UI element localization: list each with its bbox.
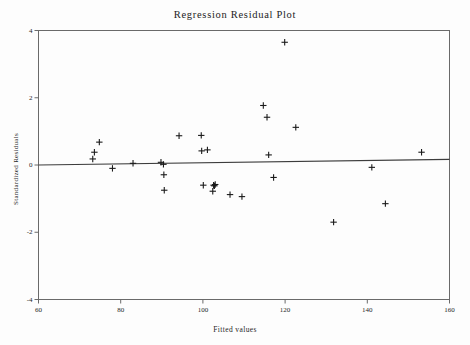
data-point (418, 149, 424, 155)
data-point (239, 193, 245, 199)
y-tick-label: 4 (13, 27, 33, 35)
x-tick-label: 60 (35, 306, 42, 314)
data-point (265, 152, 271, 158)
data-point (227, 191, 233, 197)
data-point (369, 164, 375, 170)
data-point (210, 182, 216, 188)
data-point (212, 181, 218, 187)
data-point (211, 183, 217, 189)
x-tick-label: 80 (117, 306, 124, 314)
data-point (91, 149, 97, 155)
x-tick-label: 140 (362, 306, 373, 314)
data-point (90, 156, 96, 162)
y-tick-label: -2 (13, 228, 33, 236)
data-point (109, 165, 115, 171)
data-point (264, 114, 270, 120)
data-point (330, 219, 336, 225)
data-point (281, 39, 287, 45)
data-point (96, 139, 102, 145)
data-point (161, 187, 167, 193)
data-point (161, 172, 167, 178)
regression-residual-plot: Regression Residual Plot 608010012014016… (0, 0, 470, 345)
scatter-points (90, 39, 425, 225)
y-tick-label: 2 (13, 94, 33, 102)
data-point (200, 182, 206, 188)
x-tick-label: 100 (198, 306, 209, 314)
data-point (270, 174, 276, 180)
data-point (130, 160, 136, 166)
y-tick-label: -4 (13, 296, 33, 304)
zero-residual-line (39, 159, 450, 165)
reference-line (39, 159, 450, 165)
data-point (204, 147, 210, 153)
data-point (176, 133, 182, 139)
data-point (198, 148, 204, 154)
x-tick-label: 120 (280, 306, 291, 314)
data-point (210, 188, 216, 194)
data-point (293, 124, 299, 130)
data-point (198, 132, 204, 138)
x-axis-ticks (39, 300, 450, 304)
data-point (382, 200, 388, 206)
y-axis-label: Standardized Residuals (12, 109, 20, 229)
y-axis-ticks (35, 31, 39, 300)
data-point (260, 102, 266, 108)
x-axis-label: Fitted values (0, 325, 470, 334)
axes-frame (39, 31, 450, 300)
x-tick-label: 160 (444, 306, 455, 314)
plot-canvas (0, 0, 470, 345)
